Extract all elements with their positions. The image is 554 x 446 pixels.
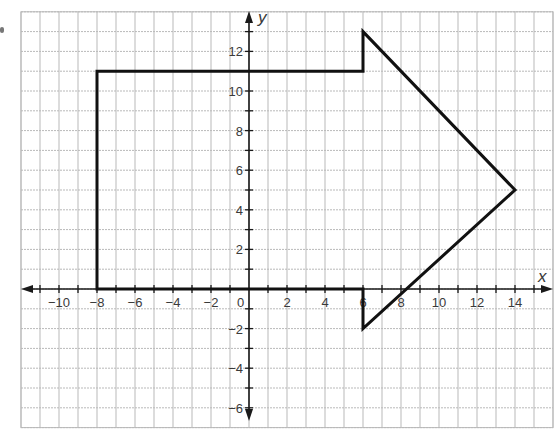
y-tick-label: 2 [236,242,243,257]
x-tick-label: −2 [204,295,219,310]
y-tick-label: 10 [229,84,243,99]
grid-lines [21,12,553,428]
x-tick-label: 2 [283,295,290,310]
x-tick-label: −8 [90,295,105,310]
x-tick-label: 12 [470,295,484,310]
origin-label: 0 [237,295,244,310]
y-axis-arrow-down-icon [245,409,253,421]
y-tick-label: 12 [229,44,243,59]
y-tick-label: 4 [236,203,243,218]
x-axis-arrow-right-icon [541,285,553,293]
x-tick-label: 4 [321,295,328,310]
coordinate-plane: −10−8−6−4−22468101214−6−4−224681012 x y … [0,0,554,446]
x-tick-label: −4 [166,295,181,310]
x-axis-arrow-left-icon [21,285,33,293]
x-tick-label: −10 [48,295,70,310]
x-tick-label: 14 [508,295,522,310]
y-tick-label: −2 [228,322,243,337]
y-axis-label: y [257,8,268,27]
y-tick-label: −4 [228,361,243,376]
y-tick-label: 8 [236,124,243,139]
x-tick-label: −6 [128,295,143,310]
x-axis-label: x [537,267,547,286]
y-tick-label: −6 [228,401,243,416]
y-axis-arrow-up-icon [245,11,253,23]
x-tick-label: 10 [432,295,446,310]
y-tick-label: 6 [236,163,243,178]
